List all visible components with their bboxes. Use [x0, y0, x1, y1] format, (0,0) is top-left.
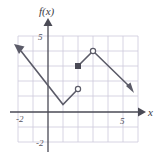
- x-axis-arrowhead: [138, 108, 146, 117]
- x-axis-label: x: [147, 106, 153, 118]
- y-axis-label: f(x): [39, 5, 55, 18]
- function-branch-2: [78, 51, 134, 93]
- closed-circle-marker-right-branch: [76, 64, 81, 69]
- y-tick-label--2: -2: [36, 138, 44, 148]
- coordinate-plane: f(x) x -2 5 5 -2: [0, 0, 159, 164]
- open-circle-marker-peak: [90, 48, 95, 53]
- y-axis-arrowhead: [44, 18, 53, 26]
- function-graph-figure: f(x) x -2 5 5 -2: [0, 0, 159, 164]
- x-tick-label--2: -2: [16, 114, 24, 124]
- open-circle-marker-left-branch: [75, 86, 80, 91]
- y-tick-label-5: 5: [38, 32, 43, 42]
- branch-1-path: [21, 51, 78, 105]
- x-tick-label-5: 5: [120, 116, 125, 126]
- branch-2-path: [78, 51, 130, 87]
- function-branch-1: [14, 44, 78, 105]
